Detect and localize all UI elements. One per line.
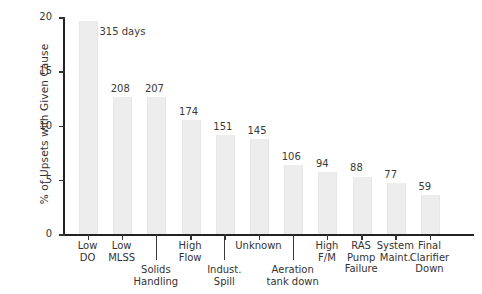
bar	[182, 120, 201, 234]
bar-value-label: 77	[384, 170, 397, 180]
bar-value-label: 145	[248, 126, 267, 136]
bar-value-label: 207	[145, 84, 164, 94]
x-category-label: Solids Handling	[122, 264, 190, 287]
bar-value-label: 208	[111, 84, 130, 94]
bar	[79, 21, 98, 234]
y-tick-label-15: 15	[39, 66, 52, 76]
y-tick-10: 10	[59, 126, 65, 128]
plot-area: 20 15 10 5 0 315 days2082071741511451069…	[63, 17, 474, 236]
bar-value-label: 106	[282, 152, 301, 162]
x-category-label: Low MLSS	[88, 240, 156, 263]
x-axis-line	[63, 234, 474, 236]
y-tick-label-10: 10	[39, 121, 52, 131]
bar	[318, 172, 337, 234]
y-tick-20: 20	[59, 17, 65, 19]
y-tick-label-5: 5	[46, 175, 52, 185]
bar-value-label: 315 days	[100, 27, 146, 37]
bar	[353, 177, 372, 235]
x-category-label: Unknown	[225, 240, 293, 252]
y-tick-label-20: 20	[39, 12, 52, 22]
y-tick-5: 5	[59, 180, 65, 182]
bar-value-label: 151	[213, 122, 232, 132]
bar-value-label: 174	[179, 107, 198, 117]
bar	[250, 139, 269, 234]
bar-value-label: 59	[419, 182, 432, 192]
bar-chart: % of Upsets with Given Cause 20 15 10 5 …	[0, 0, 482, 294]
x-category-label: Indust. Spill	[190, 264, 258, 287]
y-tick-label-0: 0	[46, 229, 52, 239]
bar	[387, 183, 406, 234]
bar	[284, 165, 303, 234]
bar	[113, 97, 132, 234]
x-category-label: Aeration tank down	[259, 264, 327, 287]
bar	[216, 135, 235, 234]
x-category-label: Final Clarifier Down	[396, 240, 464, 275]
y-tick-0: 0	[59, 234, 65, 236]
bar	[147, 97, 166, 234]
x-category-label: High Flow	[156, 240, 224, 263]
bar-value-label: 94	[316, 159, 329, 169]
bar	[421, 195, 440, 234]
y-tick-15: 15	[59, 71, 65, 73]
bar-value-label: 88	[350, 163, 363, 173]
